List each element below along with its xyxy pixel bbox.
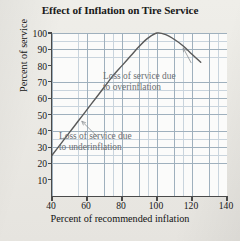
y-tick-label-40: 40 [37,125,47,136]
plot-area [51,33,227,197]
x-tick-mark-60 [86,196,87,201]
x-tick-mark-40 [51,196,52,201]
y-tick-label-20: 20 [37,158,47,169]
x-tick-label-120: 120 [184,200,198,211]
x-tick-mark-140 [226,196,227,201]
y-tick-mark-80 [48,65,53,66]
y-tick-label-10: 10 [37,174,47,185]
y-tick-label-30: 30 [37,142,47,153]
y-tick-mark-100 [48,32,53,33]
y-tick-mark-60 [48,98,53,99]
y-tick-label-100: 100 [33,28,47,39]
y-tick-label-50: 50 [37,109,47,120]
y-tick-label-80: 80 [37,60,47,71]
y-tick-label-90: 90 [37,44,47,55]
x-tick-label-80: 80 [116,200,126,211]
y-tick-mark-90 [48,49,53,50]
x-tick-label-40: 40 [46,200,56,211]
y-tick-label-70: 70 [37,76,47,87]
annotation-underinflation: Loss of service due to underinflation [59,131,132,154]
x-tick-label-140: 140 [219,200,233,211]
chart-figure: Effect of Inflation on Tire Service Perc… [0,0,240,241]
x-tick-label-60: 60 [81,200,91,211]
y-tick-mark-50 [48,114,53,115]
x-tick-mark-80 [121,196,122,201]
y-tick-mark-20 [48,163,53,164]
y-tick-mark-30 [48,147,53,148]
y-tick-mark-40 [48,130,53,131]
y-tick-mark-10 [48,179,53,180]
y-tick-label-60: 60 [37,93,47,104]
y-tick-mark-70 [48,81,53,82]
annotation-leader-lines [52,33,227,196]
x-axis-tick-labels: 406080100120140 [0,200,240,214]
x-tick-mark-120 [191,196,192,201]
x-tick-mark-100 [156,196,157,201]
x-tick-label-100: 100 [149,200,163,211]
annotation-overinflation: Loss of service due to overinflation [103,71,176,94]
leader-line-overinflation-arrow-icon [183,48,191,63]
